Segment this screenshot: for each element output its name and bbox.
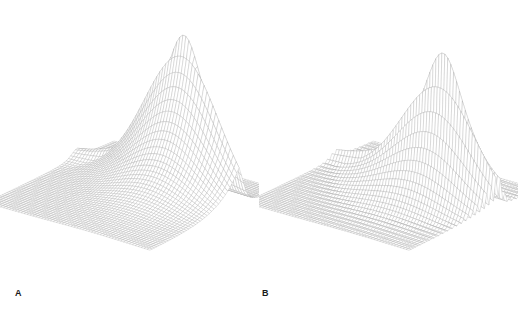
figure-root: A B — [0, 0, 518, 313]
surface-plot-a — [0, 0, 259, 290]
panel-label-a: A — [15, 289, 22, 298]
panel-b: B — [259, 0, 518, 313]
surface-mesh-b — [259, 0, 518, 290]
panel-label-b: B — [262, 289, 269, 298]
surface-mesh-a — [0, 0, 259, 290]
surface-plot-b — [259, 0, 518, 290]
panel-a: A — [0, 0, 259, 313]
